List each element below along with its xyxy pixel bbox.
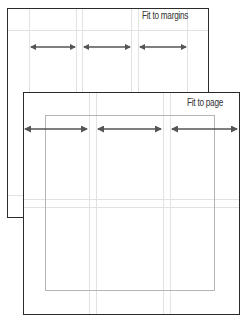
fit-to-page-arrows — [0, 0, 243, 317]
